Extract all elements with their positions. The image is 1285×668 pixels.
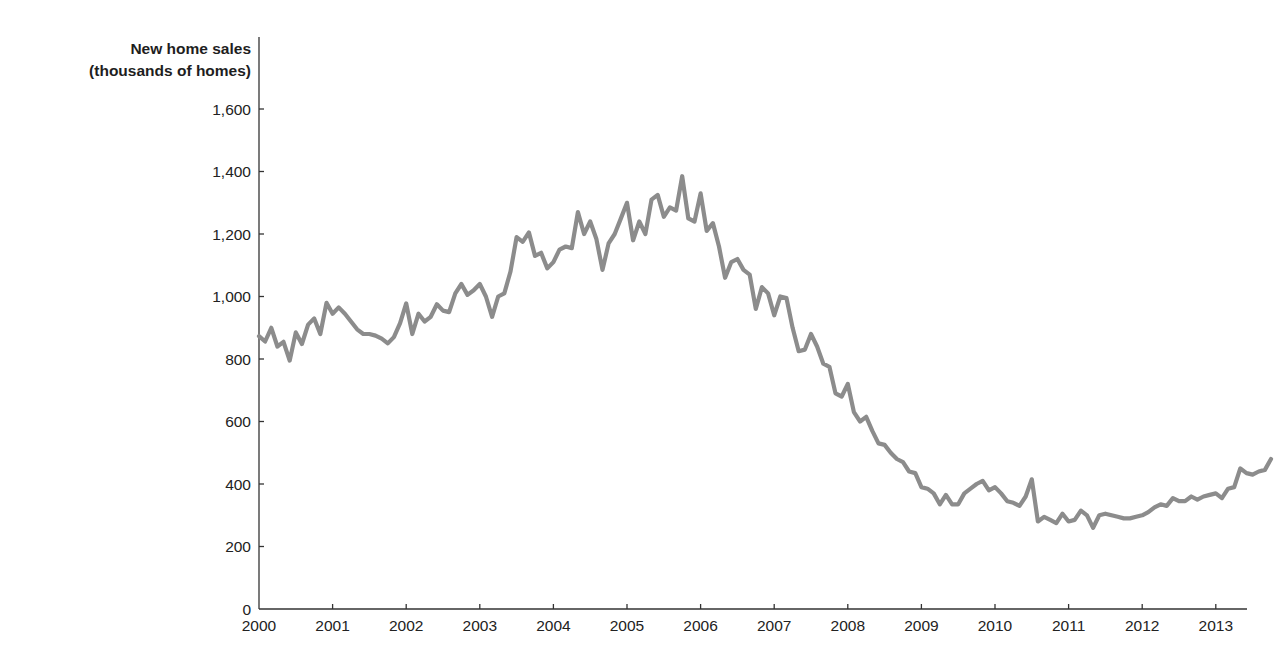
x-tick-label: 2012: [1125, 617, 1159, 634]
y-axis-title-line-2: (thousands of homes): [89, 62, 251, 79]
x-tick-label: 2006: [683, 617, 717, 634]
x-tick-label: 2007: [757, 617, 791, 634]
y-tick-label: 200: [225, 538, 251, 555]
x-tick-label: 2002: [389, 617, 423, 634]
y-tick-label: 400: [225, 476, 251, 493]
x-tick-label: 2001: [315, 617, 349, 634]
y-axis-ticks: 02004006008001,0001,2001,4001,600: [212, 101, 264, 618]
x-tick-label: 2000: [242, 617, 277, 634]
x-tick-label: 2010: [978, 617, 1013, 634]
y-axis-title-line-1: New home sales: [130, 40, 251, 57]
x-tick-label: 2008: [831, 617, 865, 634]
y-tick-label: 800: [225, 351, 251, 368]
x-tick-label: 2009: [904, 617, 938, 634]
y-tick-label: 1,600: [212, 101, 251, 118]
x-tick-label: 2004: [536, 617, 571, 634]
y-tick-label: 1,200: [212, 226, 251, 243]
new-home-sales-line: [259, 176, 1271, 528]
x-tick-label: 2003: [463, 617, 497, 634]
y-tick-label: 600: [225, 413, 251, 430]
y-tick-label: 0: [242, 601, 251, 618]
y-tick-label: 1,000: [212, 288, 251, 305]
y-tick-label: 1,400: [212, 163, 251, 180]
line-chart: New home sales (thousands of homes) 0200…: [0, 0, 1285, 668]
y-axis-title: New home sales (thousands of homes): [89, 40, 251, 79]
x-tick-label: 2005: [610, 617, 644, 634]
x-tick-label: 2011: [1052, 617, 1085, 634]
x-tick-label: 2013: [1199, 617, 1233, 634]
